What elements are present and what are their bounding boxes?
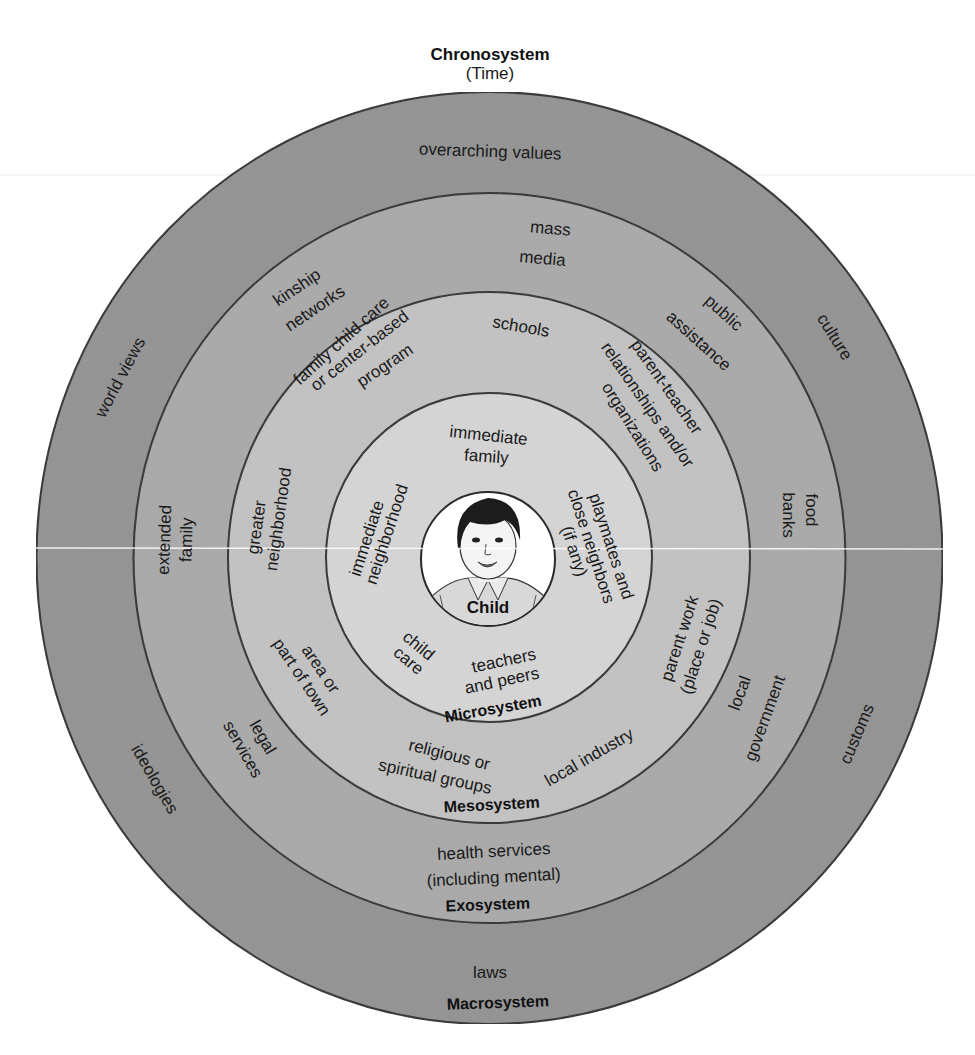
- macrosystem-label: Macrosystem: [446, 992, 549, 1013]
- bronfenbrenner-ecological-diagram: Chronosystem (Time): [0, 0, 975, 1055]
- label-banks: banks: [779, 492, 798, 537]
- chronosystem-label: Chronosystem: [430, 45, 549, 64]
- label-mass: mass: [529, 217, 571, 239]
- child-label: Child: [467, 598, 510, 617]
- label-family-ext: family: [176, 517, 197, 563]
- exosystem-label: Exosystem: [445, 895, 530, 915]
- label-laws: laws: [473, 963, 507, 982]
- label-immediate-family: family: [464, 445, 510, 467]
- label-extended: extended: [154, 505, 175, 576]
- chronosystem-sublabel: (Time): [466, 64, 514, 83]
- label-media: media: [519, 247, 567, 270]
- label-food: food: [802, 493, 821, 526]
